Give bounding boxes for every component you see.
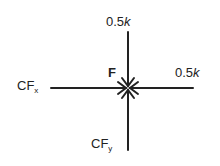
top-force-label: 0.5k xyxy=(106,15,131,29)
bottom-force-label: CFy xyxy=(91,137,112,156)
right-force-label: 0.5k xyxy=(175,66,200,80)
left-force-label: CFx xyxy=(17,79,38,98)
node-label: F xyxy=(108,66,116,80)
